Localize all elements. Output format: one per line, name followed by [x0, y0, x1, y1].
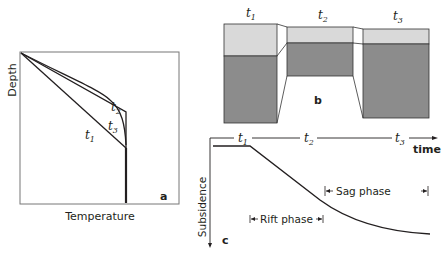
column-label-t3: t3 — [393, 9, 403, 25]
sag-right-arrow-icon — [423, 189, 427, 193]
panel-a-label: a — [160, 190, 167, 203]
panel-b-label: b — [314, 94, 322, 107]
panel-c: t1 t2 t3 time Rift phase Sag phase Subsi… — [196, 131, 441, 248]
subsidence-curve — [213, 146, 430, 234]
t2-upper-layer — [287, 27, 353, 43]
time-mark-t2: t2 — [304, 131, 314, 147]
sag-left-arrow-icon — [326, 189, 330, 193]
time-axis-label: time — [413, 143, 441, 156]
curve-label-t1: t1 — [85, 128, 95, 144]
t3-upper-layer — [363, 29, 429, 44]
t1-lower-layer — [224, 56, 277, 123]
column-label-t1: t1 — [246, 6, 256, 22]
subsidence-axis-label: Subsidence — [196, 177, 208, 237]
depth-axis-label: Depth — [6, 63, 19, 97]
column-label-t2: t2 — [318, 8, 328, 24]
figure-canvas: t2 t3 t1 a Temperature Depth t1 t2 t3 b — [0, 0, 445, 253]
temperature-axis-label: Temperature — [64, 210, 135, 223]
rift-left-arrow-icon — [251, 217, 255, 221]
rift-right-arrow-icon — [318, 217, 322, 221]
t2-lower-layer — [287, 43, 353, 76]
time-mark-t3: t3 — [395, 131, 405, 147]
t1-upper-layer — [224, 24, 277, 56]
panel-a: t2 t3 t1 a Temperature Depth — [6, 52, 179, 223]
sag-phase-label: Sag phase — [336, 185, 391, 197]
t3-lower-layer — [363, 44, 429, 118]
panel-b: t1 t2 t3 b — [224, 6, 429, 123]
curve-label-t2: t2 — [111, 100, 121, 116]
time-mark-t1: t1 — [238, 131, 248, 147]
time-axis-arrow-icon — [432, 136, 438, 140]
panel-a-frame — [20, 52, 179, 204]
panel-c-label: c — [222, 234, 229, 247]
subsidence-axis-arrow-icon — [208, 243, 212, 248]
rift-phase-label: Rift phase — [260, 213, 313, 225]
curve-label-t3: t3 — [108, 119, 118, 135]
